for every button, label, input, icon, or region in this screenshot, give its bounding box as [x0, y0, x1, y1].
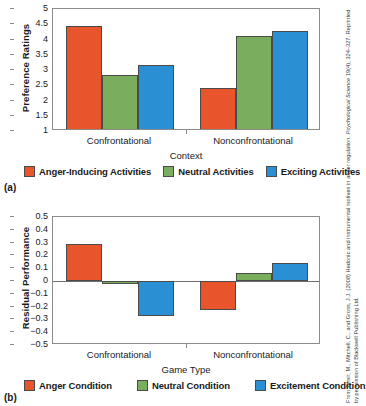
y-tick-mark: [10, 100, 14, 101]
x-tick-label: Nonconfrontational: [213, 349, 293, 360]
y-tick-label: 4.5: [14, 18, 48, 28]
y-tick-mark: [10, 293, 14, 294]
source-credit: From Tamir, M., Mitchell, C., and Gross,…: [338, 0, 366, 406]
y-tick-mark: [10, 84, 14, 85]
bar-group-b: [53, 217, 319, 343]
x-tick-label: Nonconfrontational: [213, 135, 293, 146]
y-tick-label: 2.5: [14, 79, 48, 89]
bar-group-a: [53, 9, 319, 129]
y-tick-mark: [10, 242, 14, 243]
y-tick-mark: [10, 69, 14, 70]
legend-a: Anger-Inducing ActivitiesNeutral Activit…: [24, 166, 334, 177]
y-tick-mark: [10, 331, 14, 332]
y-tick-label: −0.1: [14, 288, 48, 298]
bar: [272, 31, 308, 130]
chart-panel-a: Preference Ratings 11.522.533.544.55 Con…: [0, 0, 338, 200]
x-axis-mid-tick-b: [186, 344, 187, 348]
plot-box-b: [52, 216, 320, 344]
y-tick-mark: [10, 115, 14, 116]
y-tick-label: 0.5: [14, 211, 48, 221]
y-tick-mark: [10, 280, 14, 281]
x-axis-mid-tick-a: [186, 130, 187, 134]
y-tick-label: −0.5: [14, 339, 48, 349]
bar: [66, 26, 102, 130]
plot-area-b: 0.50.40.30.20.10−0.1−0.2−0.3−0.4−0.5 Con…: [52, 216, 320, 344]
legend-label: Neutral Condition: [152, 380, 230, 391]
bar: [138, 281, 174, 316]
x-tick-label: Confrontational: [87, 135, 151, 146]
y-tick-mark: [10, 229, 14, 230]
y-tick-mark: [10, 254, 14, 255]
x-tick-label: Confrontational: [87, 349, 151, 360]
legend-item: Neutral Activities: [163, 166, 253, 177]
y-tick-mark: [10, 344, 14, 345]
x-axis-label-b: Game Type: [52, 364, 320, 375]
legend-swatch-icon: [163, 166, 174, 177]
y-tick-label: −0.3: [14, 313, 48, 323]
bar: [138, 65, 174, 131]
y-tick-label: 4: [14, 34, 48, 44]
legend-swatch-icon: [24, 380, 35, 391]
y-tick-label: −0.4: [14, 326, 48, 336]
y-tick-mark: [10, 318, 14, 319]
bar: [102, 75, 138, 130]
credit-part-1: From Tamir, M., Mitchell, C., and Gross,…: [345, 136, 351, 403]
y-tick-label: 1: [14, 125, 48, 135]
legend-swatch-icon: [255, 380, 266, 391]
legend-label: Anger Condition: [39, 380, 112, 391]
y-tick-label: 1.5: [14, 110, 48, 120]
panel-tag-a: (a): [4, 182, 16, 193]
plot-area-a: 11.522.533.544.55 ConfrontationalNonconf…: [52, 8, 320, 130]
x-axis-ticks-b: ConfrontationalNonconfrontational: [52, 349, 320, 363]
y-tick-label: 3: [14, 64, 48, 74]
legend-item: Neutral Condition: [137, 380, 230, 391]
x-axis-label-a: Context: [52, 150, 320, 161]
credit-part-2: Psychological Science: [345, 78, 351, 136]
legend-item: Anger Condition: [24, 380, 112, 391]
y-tick-mark: [10, 8, 14, 9]
bar: [236, 273, 272, 281]
y-tick-label: 5: [14, 3, 48, 13]
legend-label: Neutral Activities: [178, 166, 253, 177]
legend-swatch-icon: [266, 166, 277, 177]
y-tick-label: 0.3: [14, 237, 48, 247]
legend-b: Anger ConditionNeutral ConditionExciteme…: [24, 380, 334, 391]
plot-box-a: [52, 8, 320, 130]
y-tick-mark: [10, 54, 14, 55]
panel-tag-b: (b): [4, 392, 17, 403]
bar: [236, 36, 272, 130]
figure-container: Preference Ratings 11.522.533.544.55 Con…: [0, 0, 338, 406]
legend-label: Anger-Inducing Activities: [39, 166, 151, 177]
bar: [102, 281, 138, 284]
bar: [200, 88, 236, 130]
source-credit-text: From Tamir, M., Mitchell, C., and Gross,…: [345, 3, 360, 403]
y-tick-label: 2: [14, 95, 48, 105]
y-tick-mark: [10, 216, 14, 217]
y-tick-label: 0.4: [14, 224, 48, 234]
bar: [272, 263, 308, 281]
y-tick-label: 0.1: [14, 262, 48, 272]
legend-item: Anger-Inducing Activities: [24, 166, 151, 177]
y-tick-label: 3.5: [14, 49, 48, 59]
y-tick-mark: [10, 130, 14, 131]
y-tick-mark: [10, 267, 14, 268]
chart-panel-b: Residual Performance 0.50.40.30.20.10−0.…: [0, 200, 338, 406]
y-tick-mark: [10, 23, 14, 24]
y-tick-label: −0.2: [14, 301, 48, 311]
bar: [66, 244, 102, 281]
bar: [200, 281, 236, 310]
legend-swatch-icon: [24, 166, 35, 177]
y-tick-label: 0.2: [14, 249, 48, 259]
y-tick-mark: [10, 39, 14, 40]
x-axis-ticks-a: ConfrontationalNonconfrontational: [52, 135, 320, 149]
legend-swatch-icon: [137, 380, 148, 391]
y-tick-label: 0: [14, 275, 48, 285]
y-tick-mark: [10, 306, 14, 307]
